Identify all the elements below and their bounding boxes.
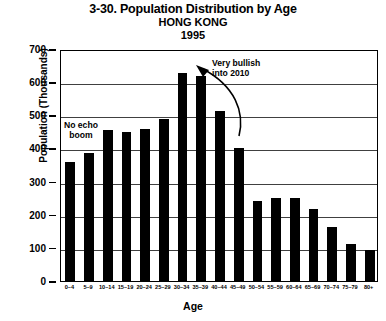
y-tick-label: 500 — [4, 110, 46, 121]
x-tick-label: 50–54 — [249, 284, 265, 290]
bar — [103, 130, 113, 281]
x-tick-label: 35–39 — [193, 284, 209, 290]
y-tick-label: 600 — [4, 77, 46, 88]
y-tick-mark — [49, 82, 56, 84]
bar — [140, 129, 150, 281]
x-axis-ticks: 0–45–910–1415–1920–2425–2930–3435–3940–4… — [60, 284, 378, 298]
y-tick-label: 100 — [4, 243, 46, 254]
y-tick-label: 200 — [4, 210, 46, 221]
x-axis-label: Age — [0, 300, 386, 312]
y-tick-mark — [49, 148, 56, 150]
bar — [253, 201, 263, 281]
x-tick-label: 40–44 — [211, 284, 227, 290]
chart-container: 3-30. Population Distribution by Age HON… — [0, 0, 386, 321]
bar — [271, 198, 281, 281]
y-tick-mark — [49, 248, 56, 250]
annotation-no-echo-boom-line2: boom — [64, 130, 98, 140]
y-tick-label: 300 — [4, 177, 46, 188]
bar — [159, 119, 169, 281]
x-tick-label: 0–4 — [65, 284, 74, 290]
y-tick-mark — [49, 281, 56, 283]
bar — [65, 162, 75, 281]
bar — [290, 198, 300, 281]
y-tick-label: 700 — [4, 44, 46, 55]
x-tick-label: 45–49 — [230, 284, 246, 290]
x-tick-label: 60–64 — [286, 284, 302, 290]
y-tick-mark — [49, 115, 56, 117]
y-tick-mark — [49, 215, 56, 217]
annotation-no-echo-boom: No echo boom — [64, 120, 98, 140]
x-tick-label: 75–79 — [342, 284, 358, 290]
bar — [346, 244, 356, 281]
x-tick-label: 55–59 — [267, 284, 283, 290]
bar — [327, 227, 337, 281]
bar — [365, 250, 375, 281]
y-tick-mark — [49, 49, 56, 51]
y-tick-label: 400 — [4, 143, 46, 154]
annotation-no-echo-boom-line1: No echo — [64, 120, 98, 130]
curved-arrow-icon — [183, 60, 263, 138]
x-tick-label: 5–9 — [83, 284, 92, 290]
bar — [122, 132, 132, 281]
x-tick-label: 10–14 — [99, 284, 115, 290]
bar — [309, 209, 319, 281]
x-tick-label: 25–29 — [155, 284, 171, 290]
bar — [84, 153, 94, 281]
bar — [234, 148, 244, 281]
y-tick-mark — [49, 182, 56, 184]
x-tick-label: 15–19 — [118, 284, 134, 290]
y-tick-label: 0 — [4, 276, 46, 287]
x-tick-label: 80+ — [364, 284, 374, 290]
x-tick-label: 65–69 — [305, 284, 321, 290]
y-axis-ticks: 0100200300400500600700 — [0, 0, 60, 321]
x-tick-label: 30–34 — [174, 284, 190, 290]
x-tick-label: 20–24 — [136, 284, 152, 290]
x-tick-label: 70–74 — [323, 284, 339, 290]
